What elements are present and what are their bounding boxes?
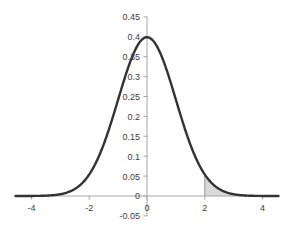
y-axis-tick-label: 0.3 <box>127 72 140 82</box>
x-axis-tick-label: -2 <box>85 203 93 213</box>
y-axis-tick-label: 0.1 <box>127 152 140 162</box>
y-axis-tick-label: -0.05 <box>119 211 140 221</box>
x-axis-tick-labels: -4-2024 <box>27 203 265 213</box>
y-axis-tick-label: 0.25 <box>122 92 140 102</box>
x-axis-tick-label: 2 <box>202 203 207 213</box>
plot-area: 0.450.40.350.30.250.20.150.10.050-0.05 -… <box>0 0 295 235</box>
x-axis-tick-label: 4 <box>260 203 265 213</box>
x-axis-tick-label: -4 <box>27 203 35 213</box>
y-axis-tick-label: 0.35 <box>122 52 140 62</box>
y-axis-tick-labels: 0.450.40.350.30.250.20.150.10.050-0.05 <box>119 12 140 221</box>
y-axis-tick-label: 0.45 <box>122 12 140 22</box>
y-axis-tick-label: 0.15 <box>122 132 140 142</box>
y-axis-tick-label: 0 <box>135 191 140 201</box>
normal-distribution-chart: 0.450.40.350.30.250.20.150.10.050-0.05 -… <box>0 0 295 235</box>
y-axis-tick-label: 0.05 <box>122 172 140 182</box>
x-axis-tick-label: 0 <box>144 203 149 213</box>
axes-group <box>16 17 279 216</box>
y-axis-tick-label: 0.4 <box>127 32 140 42</box>
y-axis-tick-label: 0.2 <box>127 112 140 122</box>
